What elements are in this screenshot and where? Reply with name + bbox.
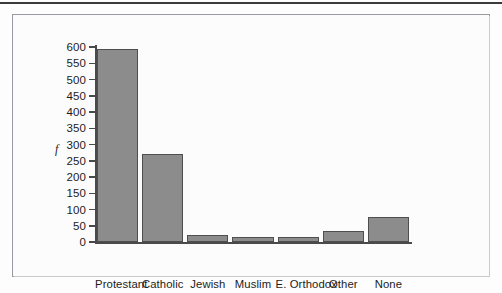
y-tick-mark (89, 176, 95, 178)
y-tick-mark (89, 46, 95, 48)
y-axis-title: f (55, 142, 58, 157)
x-tick-label: Catholic (140, 278, 185, 290)
y-tick-mark (89, 111, 95, 113)
y-tick-label: 600 (67, 41, 87, 53)
plot-area: 050100150200250300350400450500550600 Pro… (95, 47, 411, 242)
x-tick-label: E. Orthodox (276, 278, 321, 290)
bar-muslim (232, 237, 273, 242)
y-tick-label: 300 (67, 139, 87, 151)
bar-none (368, 217, 409, 242)
y-tick-label: 0 (80, 236, 87, 248)
bar-protestant (97, 49, 138, 242)
y-tick-label: 350 (67, 122, 87, 134)
y-tick-mark (89, 160, 95, 162)
y-tick-mark (89, 95, 95, 97)
y-tick-label: 500 (67, 74, 87, 86)
figure-page: 050100150200250300350400450500550600 Pro… (0, 0, 502, 293)
figure-frame: 050100150200250300350400450500550600 Pro… (12, 14, 490, 277)
y-tick-mark (89, 209, 95, 211)
bar-e-orthodox (278, 237, 319, 242)
bar-other (323, 231, 364, 242)
x-tick-label: Other (321, 278, 366, 290)
page-top-rule (0, 2, 502, 4)
y-tick-label: 550 (67, 57, 87, 69)
y-tick-label: 200 (67, 171, 87, 183)
x-tick-label: Jewish (185, 278, 230, 290)
y-tick-label: 150 (67, 187, 87, 199)
y-tick-label: 50 (73, 220, 86, 232)
y-tick-label: 100 (67, 204, 87, 216)
x-axis-line (95, 242, 412, 244)
bar-catholic (142, 154, 183, 242)
y-tick-mark (89, 79, 95, 81)
bar-jewish (187, 235, 228, 242)
y-tick-label: 250 (67, 155, 87, 167)
y-tick-mark (89, 193, 95, 195)
y-tick-mark (89, 241, 95, 243)
x-tick-label: Muslim (230, 278, 275, 290)
y-tick-mark (89, 225, 95, 227)
y-tick-label: 400 (67, 106, 87, 118)
y-tick-label: 450 (67, 90, 87, 102)
x-tick-label: None (366, 278, 411, 290)
y-tick-mark (89, 128, 95, 130)
y-tick-mark (89, 63, 95, 65)
y-tick-mark (89, 144, 95, 146)
x-tick-label: Protestant (95, 278, 140, 290)
